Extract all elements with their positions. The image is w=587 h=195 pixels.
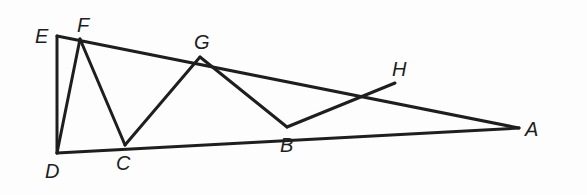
segment-bh bbox=[287, 83, 395, 127]
point-label-b: B bbox=[280, 134, 293, 156]
point-label-c: C bbox=[116, 152, 131, 174]
point-label-e: E bbox=[35, 25, 49, 47]
point-label-h: H bbox=[392, 58, 407, 80]
segment-gb bbox=[200, 57, 287, 127]
point-label-g: G bbox=[194, 31, 210, 53]
segment-df bbox=[57, 39, 80, 153]
point-label-d: D bbox=[45, 160, 59, 182]
triangle-diagram: A B C D E F G H bbox=[0, 0, 587, 195]
geometry-figure: A B C D E F G H bbox=[0, 0, 587, 195]
segment-fc bbox=[80, 39, 125, 145]
point-label-group: A B C D E F G H bbox=[35, 14, 538, 182]
point-label-a: A bbox=[524, 118, 538, 140]
point-label-f: F bbox=[77, 14, 91, 36]
segment-ea bbox=[57, 36, 519, 128]
segment-cg bbox=[125, 57, 200, 145]
